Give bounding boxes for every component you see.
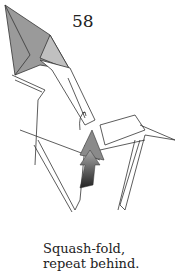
caption-line-2: repeat behind. [43, 256, 139, 271]
origami-diagram [0, 0, 184, 273]
caption-line-1: Squash-fold, [43, 241, 139, 256]
neck [40, 60, 95, 125]
body [100, 115, 145, 145]
caption: Squash-fold, repeat behind. [43, 241, 139, 271]
